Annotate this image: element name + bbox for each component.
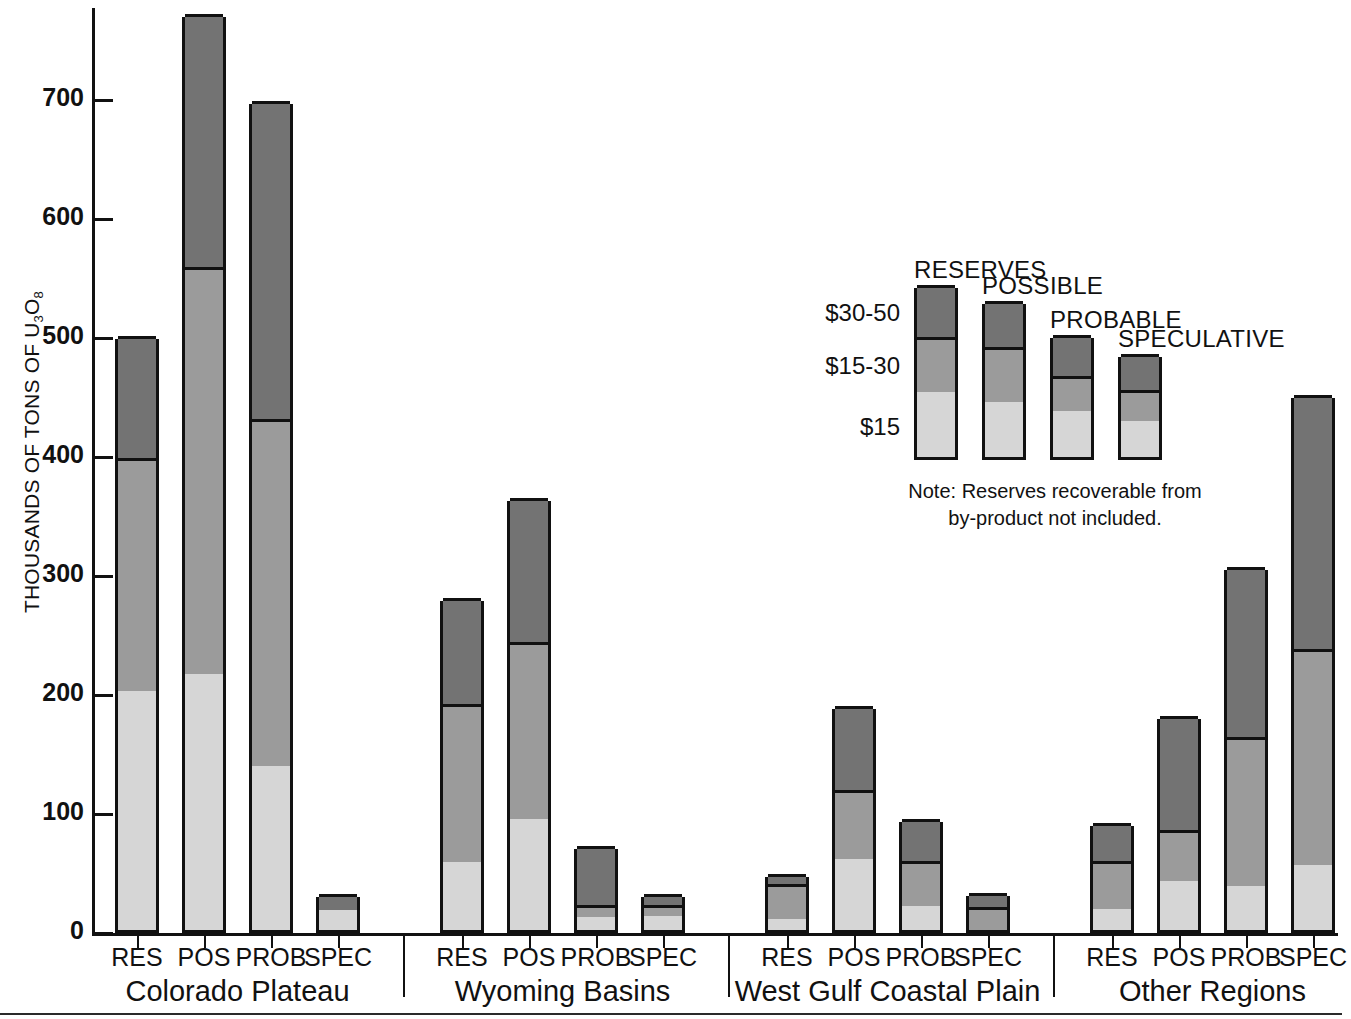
y-tick-label-0: 0 [14, 916, 84, 945]
bar-west-gulf-coastal-plain-spec[interactable] [966, 896, 1010, 933]
bar-segment-30to50 [319, 894, 357, 909]
bar-segment-30to50 [1227, 567, 1265, 737]
legend-segment-30to50 [917, 285, 955, 337]
y-tick-label-200: 200 [14, 678, 84, 707]
legend-bar-reserves [914, 288, 958, 460]
bar-segment-15to30 [1093, 861, 1131, 909]
legend-price-label-15: $15 [790, 413, 900, 441]
y-axis-line [92, 8, 95, 935]
x-category-label-spec: SPEC [1263, 943, 1351, 972]
bar-wyoming-basins-pos[interactable] [507, 501, 551, 933]
bar-segment-15 [577, 917, 615, 930]
y-tick-300 [95, 575, 113, 578]
legend-segment-15 [1121, 421, 1159, 457]
legend-segment-30to50 [1053, 335, 1091, 375]
bar-colorado-plateau-res[interactable] [115, 339, 159, 933]
bar-segment-15 [252, 766, 290, 930]
legend-segment-30to50 [985, 301, 1023, 347]
bar-segment-15to30 [835, 790, 873, 859]
bottom-rule [0, 1013, 1342, 1015]
bar-west-gulf-coastal-plain-pos[interactable] [832, 709, 876, 933]
bar-segment-30to50 [577, 846, 615, 906]
x-category-label-spec: SPEC [938, 943, 1038, 972]
bar-segment-30to50 [969, 893, 1007, 907]
bar-segment-30to50 [1160, 716, 1198, 830]
bar-segment-15to30 [969, 907, 1007, 930]
legend-bar-possible [982, 304, 1026, 460]
x-category-label-spec: SPEC [288, 943, 388, 972]
bar-other-regions-res[interactable] [1090, 826, 1134, 933]
bar-colorado-plateau-spec[interactable] [316, 897, 360, 933]
legend-note: Note: Reserves recoverable from by-produ… [890, 478, 1220, 532]
y-tick-400 [95, 456, 113, 459]
bar-west-gulf-coastal-plain-prob[interactable] [899, 822, 943, 933]
bar-segment-30to50 [185, 14, 223, 267]
bar-segment-30to50 [835, 706, 873, 789]
bar-segment-15to30 [443, 704, 481, 862]
legend-segment-15to30 [1121, 390, 1159, 421]
legend-segment-15to30 [985, 347, 1023, 402]
group-separator-1 [403, 933, 405, 997]
bar-other-regions-pos[interactable] [1157, 719, 1201, 933]
bar-segment-15to30 [577, 905, 615, 917]
bar-segment-15 [1160, 881, 1198, 930]
bar-segment-15 [510, 819, 548, 930]
bar-segment-15to30 [1294, 649, 1332, 864]
legend-note-line-2: by-product not included. [890, 505, 1220, 532]
legend-bar-speculative [1118, 357, 1162, 460]
y-tick-200 [95, 694, 113, 697]
bar-segment-15 [835, 859, 873, 930]
bar-segment-15to30 [252, 419, 290, 765]
bar-wyoming-basins-res[interactable] [440, 601, 484, 933]
bar-segment-15 [185, 674, 223, 930]
bar-west-gulf-coastal-plain-res[interactable] [765, 877, 809, 933]
bar-segment-30to50 [252, 101, 290, 420]
legend-note-line-1: Note: Reserves recoverable from [890, 478, 1220, 505]
bar-segment-30to50 [510, 498, 548, 642]
y-tick-label-400: 400 [14, 440, 84, 469]
x-axis-line [92, 933, 1338, 936]
bar-segment-15 [1227, 886, 1265, 930]
group-separator-2 [728, 933, 730, 997]
y-tick-label-700: 700 [14, 83, 84, 112]
bar-segment-30to50 [902, 819, 940, 861]
y-tick-500 [95, 337, 113, 340]
y-tick-label-100: 100 [14, 797, 84, 826]
y-axis-title-sub-8: 8 [31, 291, 46, 298]
bar-segment-30to50 [768, 874, 806, 884]
y-tick-label-500: 500 [14, 321, 84, 350]
legend-segment-15 [1053, 411, 1091, 457]
bar-segment-15 [319, 910, 357, 930]
bar-segment-30to50 [443, 598, 481, 704]
bar-segment-15to30 [510, 642, 548, 819]
legend-segment-15 [985, 402, 1023, 457]
bar-colorado-plateau-prob[interactable] [249, 104, 293, 933]
bar-segment-15 [644, 916, 682, 930]
bar-other-regions-prob[interactable] [1224, 570, 1268, 933]
bar-other-regions-spec[interactable] [1291, 398, 1335, 934]
bar-colorado-plateau-pos[interactable] [182, 17, 226, 933]
legend-segment-15to30 [917, 337, 955, 392]
legend-price-label-30to50: $30-50 [790, 299, 900, 327]
bar-segment-15to30 [118, 458, 156, 691]
x-category-label-spec: SPEC [613, 943, 713, 972]
bar-segment-15to30 [768, 884, 806, 920]
group-separator-3 [1053, 933, 1055, 997]
bar-segment-15to30 [902, 861, 940, 906]
bar-segment-30to50 [1093, 823, 1131, 861]
bar-wyoming-basins-prob[interactable] [574, 849, 618, 933]
y-tick-600 [95, 218, 113, 221]
bar-segment-15 [902, 906, 940, 930]
bar-segment-15to30 [185, 267, 223, 674]
y-tick-100 [95, 813, 113, 816]
bar-wyoming-basins-spec[interactable] [641, 897, 685, 933]
legend-bar-probable [1050, 338, 1094, 460]
bar-segment-15 [118, 691, 156, 930]
legend-segment-30to50 [1121, 354, 1159, 390]
legend-segment-15 [917, 392, 955, 457]
bar-segment-15to30 [644, 905, 682, 916]
bar-segment-15to30 [1160, 830, 1198, 881]
legend-segment-15to30 [1053, 376, 1091, 412]
legend-title-speculative: SPECULATIVE [1118, 325, 1285, 353]
